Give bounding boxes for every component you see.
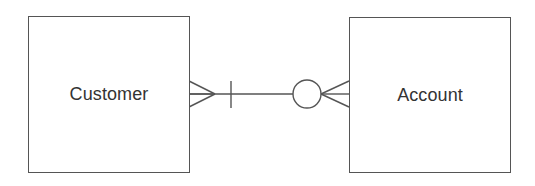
entity-label: Customer <box>70 84 149 105</box>
entity-label: Account <box>397 85 463 106</box>
zero-circle-icon <box>293 80 321 108</box>
customer-crows-foot-icon <box>189 81 215 107</box>
entity-account[interactable]: Account <box>349 17 511 173</box>
entity-customer[interactable]: Customer <box>28 16 190 173</box>
account-crows-foot-icon <box>321 81 349 107</box>
